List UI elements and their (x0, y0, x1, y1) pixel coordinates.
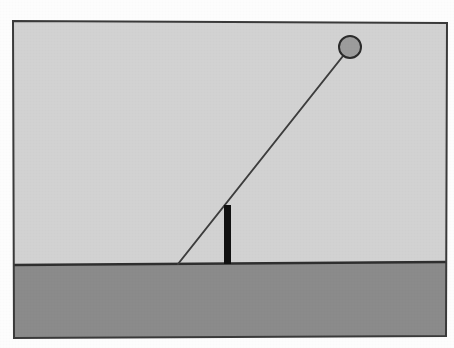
ball (339, 36, 361, 58)
vertical-post (224, 205, 231, 264)
physics-diagram (0, 0, 454, 348)
ground-region (12, 261, 448, 342)
figure-canvas (0, 0, 454, 348)
